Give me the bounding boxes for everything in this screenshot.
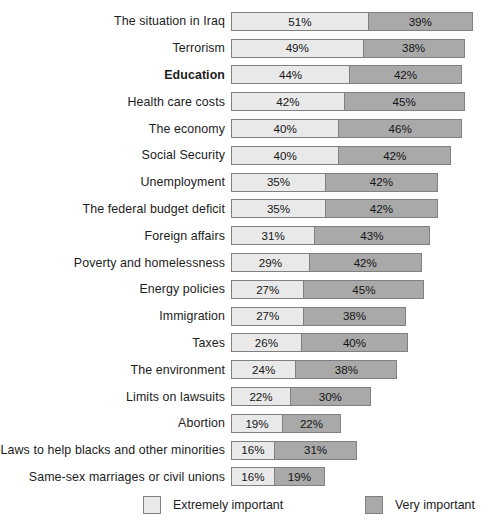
chart-rows: The situation in Iraq51%39%Terrorism49%3… bbox=[0, 8, 498, 490]
bar-segment-very-important: 42% bbox=[338, 146, 451, 165]
bar-segment-value: 22% bbox=[300, 417, 323, 429]
bar-segment-extremely-important: 51% bbox=[231, 12, 368, 31]
bar-segment-value: 35% bbox=[267, 203, 290, 215]
bar-segment-value: 42% bbox=[394, 69, 417, 81]
legend-label-very-important: Very important bbox=[395, 498, 475, 512]
chart-bar: 22%30% bbox=[231, 387, 371, 406]
chart-row: Poverty and homelessness29%42% bbox=[0, 249, 498, 276]
chart-row-label: Poverty and homelessness bbox=[0, 256, 231, 270]
chart-row-label: Limits on lawsuits bbox=[0, 390, 231, 404]
bar-segment-value: 38% bbox=[402, 42, 425, 54]
bar-segment-very-important: 42% bbox=[349, 65, 462, 84]
bar-segment-value: 29% bbox=[259, 256, 282, 268]
chart-row-label: Energy policies bbox=[0, 282, 231, 296]
chart-row: The situation in Iraq51%39% bbox=[0, 8, 498, 35]
bar-segment-very-important: 31% bbox=[274, 441, 357, 460]
bar-segment-very-important: 45% bbox=[344, 92, 465, 111]
bar-segment-value: 22% bbox=[249, 390, 272, 402]
chart-row-label: Social Security bbox=[0, 148, 231, 162]
legend-swatch-very-important bbox=[365, 496, 383, 514]
bar-segment-extremely-important: 35% bbox=[231, 173, 325, 192]
bar-segment-very-important: 38% bbox=[363, 39, 465, 58]
bar-segment-value: 42% bbox=[354, 256, 377, 268]
chart-row: Taxes26%40% bbox=[0, 330, 498, 357]
bar-segment-value: 24% bbox=[252, 363, 275, 375]
chart-bar: 19%22% bbox=[231, 414, 341, 433]
legend-swatch-extremely-important bbox=[143, 496, 161, 514]
bar-segment-very-important: 42% bbox=[325, 173, 438, 192]
stacked-bar-chart: The situation in Iraq51%39%Terrorism49%3… bbox=[0, 0, 498, 531]
bar-segment-value: 38% bbox=[335, 363, 358, 375]
chart-row: The federal budget deficit35%42% bbox=[0, 196, 498, 223]
chart-row-label: Foreign affairs bbox=[0, 229, 231, 243]
chart-row-label: Terrorism bbox=[0, 41, 231, 55]
chart-bar: 16%19% bbox=[231, 467, 325, 486]
bar-segment-very-important: 19% bbox=[274, 467, 325, 486]
bar-segment-extremely-important: 24% bbox=[231, 360, 295, 379]
chart-row: Laws to help blacks and other minorities… bbox=[0, 437, 498, 464]
bar-segment-extremely-important: 27% bbox=[231, 280, 303, 299]
bar-segment-value: 51% bbox=[288, 15, 311, 27]
chart-row: Same-sex marriages or civil unions16%19% bbox=[0, 464, 498, 491]
bar-segment-value: 31% bbox=[262, 229, 285, 241]
bar-segment-value: 27% bbox=[256, 283, 279, 295]
bar-segment-very-important: 39% bbox=[368, 12, 473, 31]
chart-row: The economy40%46% bbox=[0, 115, 498, 142]
bar-segment-value: 30% bbox=[319, 390, 342, 402]
chart-row: Limits on lawsuits22%30% bbox=[0, 383, 498, 410]
chart-row: Social Security40%42% bbox=[0, 142, 498, 169]
bar-segment-extremely-important: 44% bbox=[231, 65, 349, 84]
chart-bar: 40%42% bbox=[231, 146, 451, 165]
legend-item-extremely-important: Extremely important bbox=[143, 496, 283, 514]
bar-segment-extremely-important: 40% bbox=[231, 119, 338, 138]
chart-row-label: Health care costs bbox=[0, 95, 231, 109]
chart-bar: 35%42% bbox=[231, 199, 438, 218]
chart-bar: 29%42% bbox=[231, 253, 422, 272]
chart-row-label: The economy bbox=[0, 122, 231, 136]
chart-row-label: Taxes bbox=[0, 336, 231, 350]
bar-segment-very-important: 22% bbox=[282, 414, 341, 433]
bar-segment-value: 46% bbox=[389, 122, 412, 134]
bar-segment-extremely-important: 16% bbox=[231, 467, 274, 486]
chart-row: Abortion19%22% bbox=[0, 410, 498, 437]
bar-segment-very-important: 38% bbox=[303, 307, 405, 326]
bar-segment-value: 49% bbox=[286, 42, 309, 54]
bar-segment-value: 16% bbox=[241, 444, 264, 456]
bar-segment-extremely-important: 49% bbox=[231, 39, 363, 58]
legend-item-very-important: Very important bbox=[365, 496, 475, 514]
chart-row: Energy policies27%45% bbox=[0, 276, 498, 303]
chart-bar: 24%38% bbox=[231, 360, 397, 379]
bar-segment-value: 26% bbox=[255, 337, 278, 349]
chart-bar: 16%31% bbox=[231, 441, 357, 460]
chart-bar: 40%46% bbox=[231, 119, 462, 138]
bar-segment-value: 45% bbox=[352, 283, 375, 295]
bar-segment-value: 27% bbox=[256, 310, 279, 322]
chart-row-label: Immigration bbox=[0, 309, 231, 323]
bar-segment-value: 39% bbox=[409, 15, 432, 27]
chart-bar: 31%43% bbox=[231, 226, 430, 245]
bar-segment-extremely-important: 22% bbox=[231, 387, 290, 406]
bar-segment-extremely-important: 42% bbox=[231, 92, 344, 111]
chart-row: Unemployment35%42% bbox=[0, 169, 498, 196]
bar-segment-extremely-important: 27% bbox=[231, 307, 303, 326]
bar-segment-very-important: 38% bbox=[295, 360, 397, 379]
bar-segment-value: 45% bbox=[393, 95, 416, 107]
bar-segment-very-important: 43% bbox=[314, 226, 429, 245]
bar-segment-very-important: 40% bbox=[301, 333, 408, 352]
chart-row-label: Education bbox=[0, 68, 231, 82]
chart-row-label: The environment bbox=[0, 363, 231, 377]
chart-bar: 51%39% bbox=[231, 12, 473, 31]
chart-row: The environment24%38% bbox=[0, 356, 498, 383]
bar-segment-extremely-important: 19% bbox=[231, 414, 282, 433]
bar-segment-extremely-important: 40% bbox=[231, 146, 338, 165]
chart-bar: 42%45% bbox=[231, 92, 465, 111]
chart-bar: 49%38% bbox=[231, 39, 465, 58]
bar-segment-value: 42% bbox=[383, 149, 406, 161]
bar-segment-very-important: 46% bbox=[338, 119, 462, 138]
bar-segment-value: 42% bbox=[276, 95, 299, 107]
chart-row-label: Laws to help blacks and other minorities bbox=[0, 443, 231, 457]
bar-segment-very-important: 42% bbox=[309, 253, 422, 272]
chart-row-label: Abortion bbox=[0, 416, 231, 430]
legend-label-extremely-important: Extremely important bbox=[173, 498, 283, 512]
chart-bar: 27%38% bbox=[231, 307, 406, 326]
